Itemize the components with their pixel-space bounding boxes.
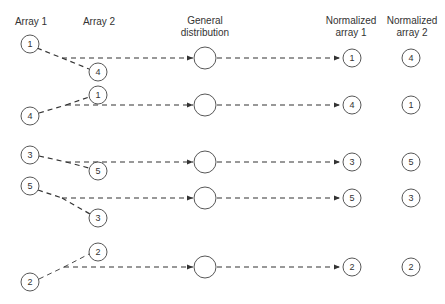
array1-value: 5: [27, 181, 32, 191]
norm1-value: 4: [349, 100, 354, 110]
connector-array1-row2: [39, 105, 66, 113]
norm2-value: 3: [408, 193, 413, 203]
norm2-value: 5: [408, 157, 413, 167]
norm1-value: 3: [349, 157, 354, 167]
norm2-value: 4: [408, 53, 413, 63]
norm1-value: 2: [349, 262, 354, 272]
connector-array1-row3: [39, 156, 66, 162]
connector-array1-row5: [39, 267, 64, 279]
general-node: [194, 256, 216, 278]
array1-value: 1: [27, 39, 32, 49]
general-node: [194, 151, 216, 173]
connector-array2-row1: [62, 58, 89, 69]
quantile-normalization-diagram: 1 4 3 5 2 4 1 5 3 2 1 4 3 5 2 4 1 5 3 2: [0, 0, 445, 304]
general-node: [194, 47, 216, 69]
array1-value: 4: [27, 111, 32, 121]
connector-array1-row1: [37, 48, 62, 58]
array2-value: 5: [95, 166, 100, 176]
connector-array2-row5: [64, 254, 89, 267]
norm2-value: 2: [408, 262, 413, 272]
norm1-value: 5: [349, 193, 354, 203]
array2-value: 2: [95, 247, 100, 257]
norm2-value: 1: [408, 100, 413, 110]
array2-value: 1: [95, 90, 100, 100]
general-node: [194, 94, 216, 116]
general-node: [194, 187, 216, 209]
array2-value: 3: [95, 213, 100, 223]
connector-array2-row2: [66, 97, 89, 105]
connector-array2-row4: [62, 198, 90, 214]
array1-value: 3: [27, 150, 32, 160]
connector-array1-row4: [38, 190, 62, 198]
array1-value: 2: [27, 277, 32, 287]
norm1-value: 1: [349, 53, 354, 63]
array2-value: 4: [95, 67, 100, 77]
connector-array2-row3: [66, 162, 89, 168]
